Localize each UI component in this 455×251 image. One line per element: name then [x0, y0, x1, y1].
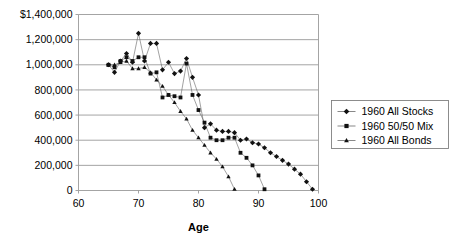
y-tick-label: 1,200,000 [26, 33, 73, 45]
data-point-square [185, 62, 189, 66]
data-point-diamond [274, 154, 279, 159]
data-point-diamond [238, 138, 243, 143]
data-point-diamond [280, 158, 285, 163]
x-tick-label: 80 [193, 197, 205, 209]
x-tick-label: 60 [73, 197, 85, 209]
data-point-triangle [124, 59, 128, 63]
y-tick-label: 0 [67, 184, 73, 196]
legend-label: 1960 All Stocks [362, 105, 434, 117]
data-point-triangle [190, 128, 194, 132]
data-point-diamond [220, 129, 225, 134]
data-point-diamond [184, 56, 189, 61]
data-point-diamond [256, 141, 261, 146]
data-point-square [191, 93, 195, 97]
series-markers-group [106, 31, 315, 192]
gridlines-group [79, 15, 319, 191]
data-point-square [137, 55, 141, 59]
y-tick-label: 1,000,000 [26, 58, 73, 70]
series-markers-diamond [106, 31, 315, 192]
data-point-triangle [232, 187, 236, 191]
data-point-diamond [244, 136, 249, 141]
data-point-diamond [226, 129, 231, 134]
series-line-triangle [109, 61, 235, 189]
chart-legend: 1960 All Stocks1960 50/50 Mix1960 All Bo… [332, 101, 449, 149]
x-tick-label: 100 [310, 197, 328, 209]
data-point-diamond [154, 41, 159, 46]
data-point-diamond [148, 41, 153, 46]
y-tick-label: $1,400,000 [20, 8, 73, 20]
data-point-diamond [178, 69, 183, 74]
data-point-square [257, 174, 261, 178]
y-tick-label: 800,000 [35, 84, 73, 96]
data-point-diamond [232, 130, 237, 135]
data-point-triangle [226, 174, 230, 178]
data-point-diamond [304, 179, 309, 184]
data-point-diamond [196, 92, 201, 97]
data-point-square [203, 121, 207, 125]
y-tick-label: 400,000 [35, 134, 73, 146]
data-point-square [263, 187, 267, 191]
data-point-diamond [136, 31, 141, 36]
data-point-square [143, 55, 147, 59]
data-point-square [221, 138, 225, 142]
data-point-square [344, 124, 348, 128]
data-point-square [227, 136, 231, 140]
data-point-square [215, 138, 219, 142]
data-point-diamond [112, 70, 117, 75]
data-point-diamond [160, 67, 165, 72]
data-point-diamond [202, 125, 207, 130]
x-tick-label: 90 [253, 197, 265, 209]
data-point-square [239, 151, 243, 155]
series-line-square [109, 57, 265, 189]
data-point-diamond [124, 51, 129, 56]
x-tick-label: 70 [133, 197, 145, 209]
legend-label: 1960 All Bonds [362, 134, 432, 146]
series-markers-square [107, 55, 267, 191]
series-markers-triangle [106, 59, 236, 191]
data-point-square [125, 55, 129, 59]
scatter-chart: 0200,000400,000600,000800,0001,000,0001,… [0, 0, 455, 251]
data-point-diamond [190, 75, 195, 80]
y-axis-tick-labels: 0200,000400,000600,000800,0001,000,0001,… [20, 8, 79, 196]
y-tick-label: 200,000 [35, 159, 73, 171]
data-point-diamond [166, 60, 171, 65]
data-point-square [161, 96, 165, 100]
data-point-square [251, 163, 255, 167]
data-point-square [209, 136, 213, 140]
data-point-square [245, 156, 249, 160]
data-point-triangle [178, 109, 182, 113]
data-point-diamond [172, 71, 177, 76]
data-point-triangle [142, 65, 146, 69]
data-point-square [131, 59, 135, 63]
data-point-square [233, 136, 237, 140]
x-axis-title: Age [188, 221, 209, 233]
plot-frame [79, 15, 319, 191]
x-axis-tick-labels: 60708090100 [73, 191, 328, 209]
chart-container: 0200,000400,000600,000800,0001,000,0001,… [0, 0, 455, 251]
data-point-diamond [250, 140, 255, 145]
data-point-square [173, 94, 177, 98]
y-tick-label: 600,000 [35, 109, 73, 121]
data-point-square [197, 108, 201, 112]
legend-label: 1960 50/50 Mix [362, 120, 435, 132]
data-point-square [155, 70, 159, 74]
x-axis-title-text: Age [188, 221, 209, 233]
data-point-square [179, 96, 183, 100]
data-point-diamond [310, 187, 315, 192]
